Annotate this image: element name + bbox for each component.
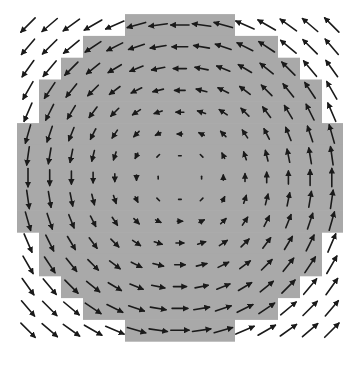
arrow-icon [21, 18, 35, 32]
arrow-icon [106, 326, 124, 334]
arrow-icon [328, 103, 336, 121]
arrow-icon [258, 20, 275, 30]
arrow-icon [22, 61, 34, 77]
arrow-icon [280, 19, 296, 31]
arrow-icon [43, 279, 56, 294]
arrow-icon [64, 302, 79, 315]
arrow-icon [281, 302, 296, 315]
arrow-icon [326, 279, 338, 295]
arrow-icon [63, 324, 79, 336]
arrow-icon [63, 19, 79, 31]
arrow-icon [42, 324, 57, 337]
arrow-icon [84, 325, 101, 335]
arrow-icon [304, 61, 317, 76]
arrow-icon [21, 323, 35, 337]
arrow-icon [325, 323, 339, 337]
arrow-icon [303, 324, 318, 337]
arrow-icon [325, 301, 338, 316]
quiver-plot [0, 0, 360, 368]
arrow-icon [23, 82, 33, 99]
arrow-icon [328, 234, 336, 252]
circular-domain-region [17, 14, 343, 342]
arrow-icon [303, 301, 317, 315]
arrow-icon [106, 21, 124, 29]
arrow-icon [22, 279, 34, 295]
arrow-icon [22, 301, 35, 316]
vector-field-figure [0, 0, 360, 368]
arrow-icon [327, 256, 337, 273]
arrow-icon [325, 39, 338, 54]
arrow-icon [43, 301, 57, 315]
arrow-icon [304, 279, 317, 294]
arrow-icon [43, 40, 57, 54]
arrow-icon [42, 19, 57, 32]
arrow-icon [326, 61, 338, 77]
arrow-icon [84, 20, 101, 30]
arrow-icon [325, 18, 339, 32]
arrow-icon [43, 61, 56, 76]
arrow-icon [236, 21, 254, 29]
arrow-icon [280, 324, 296, 336]
arrow-icon [22, 39, 35, 54]
arrow-icon [327, 82, 337, 99]
arrow-icon [23, 256, 33, 273]
arrow-icon [281, 40, 296, 53]
arrow-icon [64, 40, 79, 53]
arrow-icon [303, 40, 317, 54]
region-band [17, 167, 343, 189]
arrow-icon [24, 234, 32, 252]
arrow-icon [303, 19, 318, 32]
arrow-icon [258, 325, 275, 335]
arrow-icon [24, 103, 32, 121]
arrow-icon [236, 326, 254, 334]
